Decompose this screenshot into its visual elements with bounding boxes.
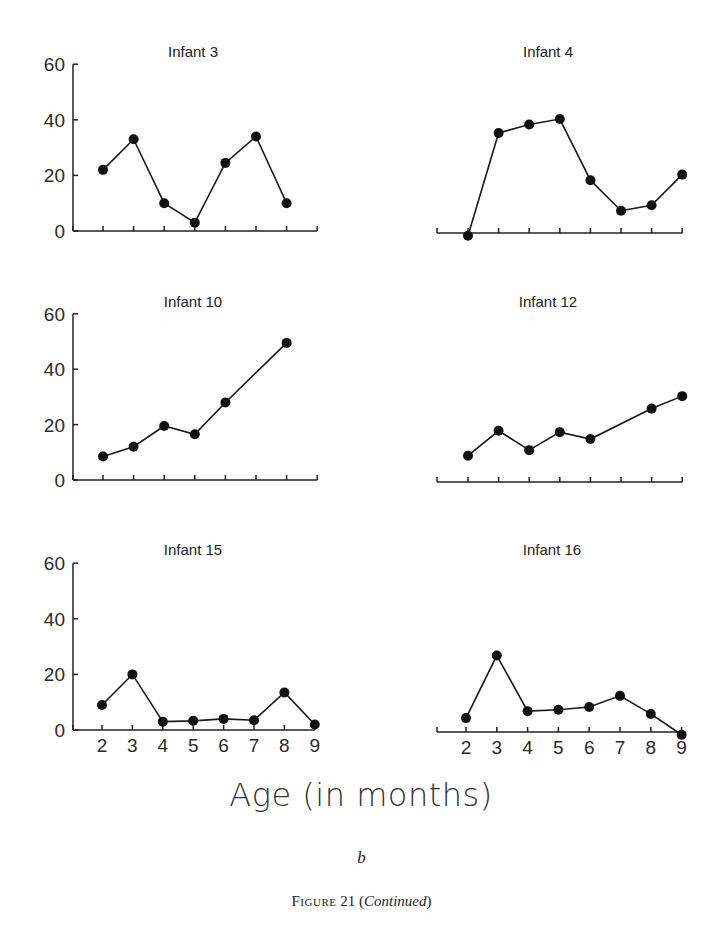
data-point: [159, 421, 169, 431]
data-point: [616, 206, 626, 216]
data-point: [677, 730, 687, 740]
panel-title: Infant 12: [519, 293, 577, 310]
x-tick-label: 4: [522, 737, 533, 758]
x-tick-label: 6: [218, 735, 229, 756]
x-tick-label: 2: [461, 737, 472, 758]
subfigure-label: b: [0, 848, 723, 868]
panel-title: Infant 3: [168, 43, 218, 60]
data-point: [677, 391, 687, 401]
x-tick-label: 4: [158, 735, 169, 756]
data-point: [647, 200, 657, 210]
data-point: [190, 218, 200, 228]
data-point: [646, 709, 656, 719]
data-point: [492, 651, 502, 661]
panel-infant-3: Infant 30204060: [44, 43, 317, 242]
caption-prefix: Figure: [292, 893, 337, 909]
caption-number: 21: [340, 893, 355, 909]
data-point: [282, 338, 292, 348]
data-point: [129, 134, 139, 144]
figure-small-multiples: Infant 30204060Infant 4Infant 100204060I…: [0, 0, 723, 938]
data-point: [310, 719, 320, 729]
data-point: [555, 114, 565, 124]
series-line: [103, 136, 287, 222]
y-tick-label: 0: [54, 470, 65, 491]
panel-infant-15: Infant 15234567890204060: [44, 541, 320, 756]
y-tick-label: 20: [44, 415, 65, 436]
data-point: [523, 706, 533, 716]
data-point: [220, 397, 230, 407]
data-point: [585, 175, 595, 185]
x-tick-label: 7: [249, 735, 260, 756]
x-tick-label: 2: [97, 735, 108, 756]
data-point: [97, 700, 107, 710]
panel-title: Infant 10: [164, 293, 222, 310]
data-point: [494, 426, 504, 436]
data-point: [158, 717, 168, 727]
data-point: [98, 451, 108, 461]
data-point: [282, 198, 292, 208]
data-point: [615, 691, 625, 701]
panel-title: Infant 15: [164, 541, 222, 558]
data-point: [127, 669, 137, 679]
x-tick-label: 7: [615, 737, 626, 758]
data-point: [251, 131, 261, 141]
y-tick-label: 20: [44, 165, 65, 186]
series-line: [103, 343, 287, 457]
x-tick-label: 3: [127, 735, 138, 756]
x-axis-label: Age (in months): [229, 776, 492, 814]
panel-infant-16: Infant 1623456789: [437, 541, 687, 758]
data-point: [585, 434, 595, 444]
data-point: [159, 198, 169, 208]
y-tick-label: 0: [54, 221, 65, 242]
panel-title: Infant 16: [523, 541, 581, 558]
data-point: [190, 429, 200, 439]
data-point: [494, 128, 504, 138]
data-point: [249, 715, 259, 725]
data-point: [129, 442, 139, 452]
data-point: [461, 713, 471, 723]
x-tick-label: 8: [279, 735, 290, 756]
x-tick-label: 5: [553, 737, 564, 758]
y-tick-label: 60: [44, 553, 65, 574]
series-line: [466, 656, 682, 735]
data-point: [463, 451, 473, 461]
y-tick-label: 0: [54, 720, 65, 741]
x-tick-label: 6: [584, 737, 595, 758]
data-point: [279, 687, 289, 697]
x-tick-label: 9: [676, 737, 687, 758]
data-point: [677, 170, 687, 180]
data-point: [98, 165, 108, 175]
y-tick-label: 40: [44, 609, 65, 630]
y-tick-label: 40: [44, 110, 65, 131]
y-tick-label: 40: [44, 359, 65, 380]
x-tick-label: 9: [310, 735, 321, 756]
data-point: [555, 427, 565, 437]
data-point: [188, 716, 198, 726]
figure-caption: Figure 21 (Continued): [0, 893, 723, 910]
data-point: [524, 120, 534, 130]
x-tick-label: 8: [646, 737, 657, 758]
caption-note: Continued: [364, 893, 427, 909]
data-point: [463, 231, 473, 241]
data-point: [584, 702, 594, 712]
data-point: [220, 158, 230, 168]
panel-infant-12: Infant 12: [437, 293, 687, 482]
y-tick-label: 20: [44, 664, 65, 685]
panel-title: Infant 4: [523, 43, 573, 60]
y-tick-label: 60: [44, 54, 65, 75]
x-tick-label: 3: [492, 737, 503, 758]
data-point: [524, 445, 534, 455]
series-line: [102, 674, 315, 724]
panels-group: Infant 30204060Infant 4Infant 100204060I…: [44, 43, 687, 758]
panel-infant-10: Infant 100204060: [44, 293, 317, 491]
data-point: [219, 714, 229, 724]
x-tick-label: 5: [188, 735, 199, 756]
data-point: [553, 705, 563, 715]
panel-infant-4: Infant 4: [437, 43, 687, 241]
y-tick-label: 60: [44, 304, 65, 325]
data-point: [647, 404, 657, 414]
